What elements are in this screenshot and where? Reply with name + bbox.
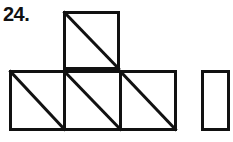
geometric-figure: [0, 0, 233, 142]
figure-page: 24.: [0, 0, 233, 142]
top-square-group: [65, 13, 119, 69]
separate-rectangle-outline: [203, 72, 229, 130]
